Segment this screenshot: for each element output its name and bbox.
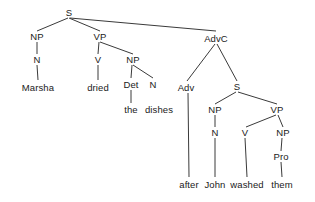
tree-terminal-word: washed [230, 180, 263, 190]
tree-terminal-word: them [271, 180, 293, 190]
tree-node-label: NP [30, 32, 43, 42]
tree-edge [98, 42, 99, 54]
tree-node-label: VP [271, 105, 284, 115]
tree-node-label: Det [123, 80, 138, 90]
tree-edge [215, 92, 236, 104]
tree-node-label: N [34, 55, 41, 65]
tree-edge [245, 138, 247, 177]
tree-node-label: S [234, 82, 240, 92]
tree-edge [100, 42, 133, 54]
tree-terminal-word: dried [87, 83, 109, 93]
tree-edge [217, 44, 237, 81]
tree-node-label: VP [94, 32, 107, 42]
tree-edge [281, 138, 282, 151]
tree-node-label: V [95, 55, 101, 65]
tree-edge [70, 18, 216, 31]
tree-terminal-word: John [204, 180, 225, 190]
tree-edge [131, 65, 132, 78]
tree-node-label: S [66, 8, 72, 18]
tree-edge [133, 65, 153, 78]
tree-edge [278, 115, 283, 127]
tree-terminal-word: dishes [145, 105, 173, 115]
syntax-tree-diagram: SNPVPAdvCNVNPDetNAdvSNPVPNVNPProMarshadr… [0, 0, 315, 202]
tree-edge [187, 44, 215, 81]
tree-node-label: Pro [273, 152, 288, 162]
tree-edge [188, 93, 189, 177]
tree-terminal-word: after [179, 180, 199, 190]
tree-edge [246, 115, 276, 127]
tree-edge [37, 18, 68, 31]
tree-terminal-word: the [124, 105, 138, 115]
tree-node-label: NP [208, 105, 221, 115]
tree-node-label: Adv [178, 83, 195, 93]
tree-node-label: V [242, 128, 248, 138]
tree-edge [238, 92, 277, 104]
tree-node-label: N [212, 128, 219, 138]
tree-edge-layer [0, 0, 315, 202]
tree-edge [281, 162, 282, 177]
tree-node-label: AdvC [204, 34, 228, 44]
tree-node-label: NP [276, 128, 289, 138]
tree-edge [37, 65, 38, 80]
tree-node-label: N [150, 80, 157, 90]
tree-terminal-word: Marsha [22, 83, 54, 93]
tree-node-label: NP [126, 55, 139, 65]
